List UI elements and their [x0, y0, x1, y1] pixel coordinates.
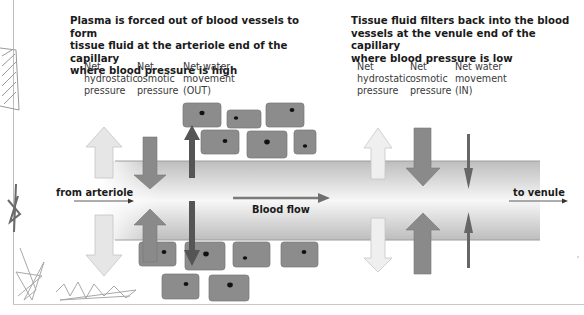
label-line: osmotic — [137, 73, 178, 85]
label-line: Net — [357, 61, 411, 73]
arteriole-net-water-label: Net water movement (OUT) — [183, 61, 235, 97]
label-line: hydrostatic — [84, 73, 138, 85]
label-line: Net — [137, 61, 178, 73]
label-line: Net water — [455, 61, 507, 73]
heading-line: vessels at the venule end of the capilla… — [351, 28, 571, 53]
blood-flow-label: Blood flow — [252, 204, 310, 215]
label-line: Net — [84, 61, 138, 73]
venule-net-water-label: Net water movement (IN) — [455, 61, 507, 97]
to-venule-label: to venule — [513, 187, 565, 198]
arteriole-osmotic-label: Net osmotic pressure — [137, 61, 178, 97]
label-line: movement — [455, 73, 507, 85]
heading-line: Plasma is forced out of blood vessels to… — [70, 15, 310, 40]
label-line: pressure — [137, 85, 178, 97]
arteriole-hydrostatic-label: Net hydrostatic pressure — [84, 61, 138, 97]
label-line: (IN) — [455, 85, 507, 97]
label-line: (OUT) — [183, 85, 235, 97]
doodle-star — [8, 184, 20, 232]
label-line: movement — [183, 73, 235, 85]
label-line: osmotic — [410, 73, 451, 85]
label-line: pressure — [410, 85, 451, 97]
heading-line: Tissue fluid filters back into the blood — [351, 15, 571, 28]
label-line: pressure — [84, 85, 138, 97]
label-line: hydrostatic — [357, 73, 411, 85]
from-arteriole-label: from arteriole — [56, 187, 133, 198]
label-line: Net — [410, 61, 451, 73]
venule-osmotic-label: Net osmotic pressure — [410, 61, 451, 97]
venule-hydrostatic-label: Net hydrostatic pressure — [357, 61, 411, 97]
label-line: pressure — [357, 85, 411, 97]
label-line: Net water — [183, 61, 235, 73]
doodle-sketch-top — [0, 48, 19, 110]
venule-end-heading: Tissue fluid filters back into the blood… — [351, 15, 571, 65]
